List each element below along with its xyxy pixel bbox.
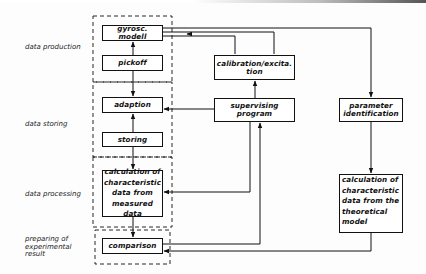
box-label: comparison — [108, 242, 156, 250]
box-label-line: data from — [112, 188, 153, 199]
box-label: pickoff — [118, 59, 146, 67]
row-label-data-production: data production — [25, 44, 81, 52]
box-label: gyrosc. modell — [103, 25, 162, 41]
box-label-line: theoretical — [342, 207, 387, 218]
box-calc-theoretical: calculation of characteristic data from … — [339, 174, 403, 233]
box-supervising-program: supervising program — [214, 98, 295, 122]
box-label: storing — [118, 136, 148, 144]
box-storing: storing — [102, 132, 163, 147]
box-pickoff: pickoff — [102, 55, 163, 71]
box-gyrosc-modell: gyrosc. modell — [102, 25, 163, 41]
row-label-data-processing: data processing — [25, 191, 81, 199]
box-comparison: comparison — [102, 238, 163, 254]
box-calc-measured: calculation of characteristic data from … — [102, 170, 163, 217]
box-label-line: measured data — [103, 199, 162, 220]
box-label-line: tion — [246, 68, 262, 76]
row-label-preparing-result: preparing of experimental result — [25, 236, 72, 259]
box-label-line: calculation of — [104, 167, 160, 178]
box-calibration-excitation: calibration/excita. tion — [214, 55, 295, 80]
box-label-line: data from the — [342, 196, 399, 207]
box-label-line: model — [342, 217, 367, 228]
row-label-line: result — [25, 251, 72, 259]
diagram-canvas: data production data storing data proces… — [0, 0, 426, 274]
box-label-line: characteristic — [104, 178, 161, 189]
box-label-line: calculation of — [342, 175, 398, 186]
box-parameter-identification: parameter identification — [339, 98, 403, 122]
box-label-line: characteristic — [342, 186, 399, 197]
box-label: adaption — [114, 101, 151, 109]
box-label-line: program — [237, 110, 272, 118]
box-label-line: identification — [343, 110, 399, 118]
row-label-data-storing: data storing — [25, 121, 67, 129]
box-adaption: adaption — [102, 97, 163, 113]
